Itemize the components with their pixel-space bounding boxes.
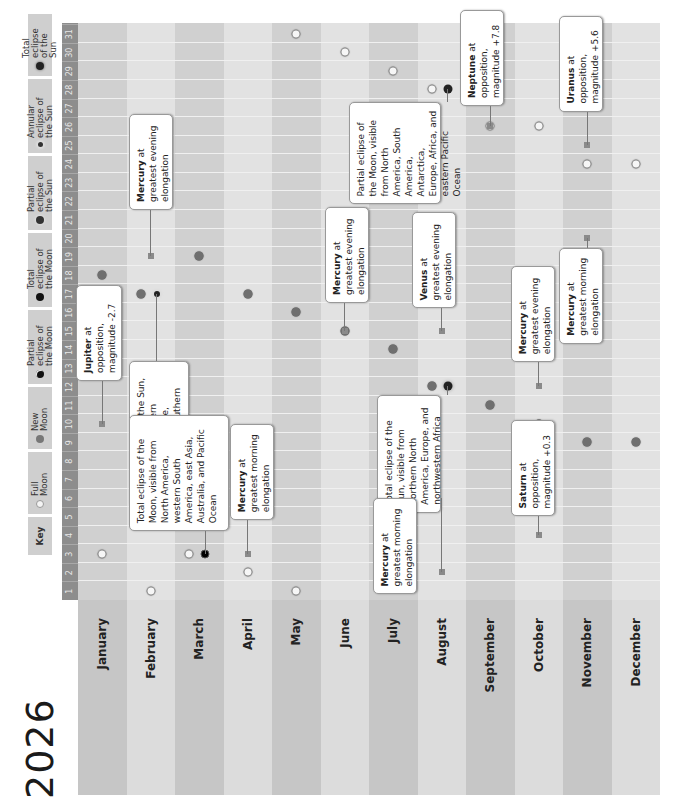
day-divider: [175, 358, 224, 359]
day-divider: [369, 339, 418, 340]
month-label: July: [369, 600, 418, 795]
month-label: March: [175, 600, 224, 795]
full-moon-icon: [146, 586, 155, 595]
day-divider: [466, 209, 515, 210]
day-divider: [466, 190, 515, 191]
month-label: November: [563, 600, 612, 795]
day-divider: [175, 246, 224, 247]
day-divider: [612, 153, 661, 154]
day-divider: [321, 450, 370, 451]
day-divider: [466, 339, 515, 340]
event-description: Neptune at opposition, magnitude +7.8: [467, 25, 501, 98]
event-planet-name: Mercury: [566, 294, 576, 336]
day-divider: [515, 580, 564, 581]
day-divider: [175, 339, 224, 340]
day-divider: [563, 376, 612, 377]
full-moon-icon: [185, 549, 194, 558]
day-divider: [612, 413, 661, 414]
day-divider: [272, 79, 321, 80]
day-divider: [612, 450, 661, 451]
full-moon-icon: [583, 159, 592, 168]
event-planet-name: Jupiter: [83, 339, 93, 373]
day-divider: [466, 488, 515, 489]
day-divider: [369, 60, 418, 61]
day-divider: [418, 339, 467, 340]
legend-new-moon: New Moon: [28, 387, 52, 449]
event-callout: Saturn at opposition, magnitude +0.3: [511, 420, 555, 516]
day-divider: [515, 79, 564, 80]
day-divider: [612, 190, 661, 191]
day-divider: [418, 358, 467, 359]
day-divider: [175, 190, 224, 191]
annular-solar-eclipse-icon: [38, 142, 43, 147]
day-divider: [175, 302, 224, 303]
day-divider: [224, 562, 273, 563]
day-number: 10: [62, 414, 78, 433]
day-divider: [466, 153, 515, 154]
month-label: June: [321, 600, 370, 795]
day-divider: [127, 60, 176, 61]
day-divider: [612, 469, 661, 470]
event-description: Mercury at greatest evening elongation: [332, 218, 366, 294]
day-divider: [78, 116, 127, 117]
day-divider: [369, 79, 418, 80]
day-divider: [369, 283, 418, 284]
day-divider: [612, 339, 661, 340]
day-divider: [127, 339, 176, 340]
event-callout: Mercury at greatest evening elongation: [325, 207, 369, 303]
day-divider: [612, 209, 661, 210]
day-divider: [563, 228, 612, 229]
day-number: 24: [62, 154, 78, 173]
day-number: 4: [62, 526, 78, 545]
day-number: 3: [62, 544, 78, 563]
day-divider: [612, 60, 661, 61]
day-divider: [224, 339, 273, 340]
day-divider: [78, 135, 127, 136]
event-description: Mercury at greatest evening elongation: [136, 126, 170, 202]
callout-leader-line: [538, 362, 539, 386]
day-divider: [272, 135, 321, 136]
year-title: 2026: [18, 698, 62, 799]
day-divider: [272, 358, 321, 359]
day-number: 27: [62, 99, 78, 118]
eclipse-callout: Partial eclipse of the Moon, visible fro…: [349, 102, 441, 204]
day-divider: [418, 580, 467, 581]
callout-leader-line: [102, 381, 103, 424]
day-divider: [515, 153, 564, 154]
total-solar-eclipse-icon: [36, 62, 44, 70]
day-divider: [563, 488, 612, 489]
day-divider: [321, 395, 370, 396]
day-divider: [224, 395, 273, 396]
day-divider: [272, 320, 321, 321]
day-divider: [369, 246, 418, 247]
event-planet-name: Saturn: [518, 474, 528, 508]
day-divider: [466, 413, 515, 414]
day-divider: [612, 320, 661, 321]
event-callout: Mercury at greatest evening elongation: [511, 266, 555, 362]
legend-partial-solar-eclipse: Partial eclipse of the Sun: [28, 156, 52, 230]
eclipse-description: Total eclipse of the Moon, visible from …: [136, 429, 218, 523]
new-moon-icon: [195, 252, 204, 261]
day-divider: [78, 153, 127, 154]
day-divider: [612, 358, 661, 359]
day-divider: [272, 395, 321, 396]
day-divider: [515, 413, 564, 414]
day-divider: [175, 135, 224, 136]
new-moon-icon: [389, 345, 398, 354]
day-divider: [224, 190, 273, 191]
day-divider: [224, 358, 273, 359]
day-divider: [175, 283, 224, 284]
month-row-december: December: [612, 23, 661, 795]
day-divider: [127, 265, 176, 266]
day-divider: [466, 172, 515, 173]
day-divider: [78, 42, 127, 43]
callout-leader-line: [344, 303, 345, 331]
day-divider: [466, 320, 515, 321]
day-divider: [563, 172, 612, 173]
day-divider: [466, 246, 515, 247]
month-label: January: [78, 600, 127, 795]
day-divider: [321, 432, 370, 433]
eclipse-callout: Total eclipse of the Moon, visible from …: [129, 415, 229, 531]
callout-leader-line: [205, 531, 206, 553]
event-planet-name: Mercury: [136, 160, 146, 202]
